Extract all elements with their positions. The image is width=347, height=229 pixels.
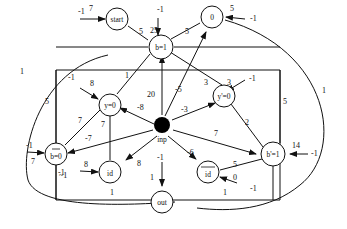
- edge-nb0-input: [27, 152, 44, 153]
- svg-text:5: 5: [185, 27, 189, 36]
- node-yp0: y'=0: [213, 85, 235, 107]
- node-zero: 0: [201, 6, 223, 28]
- svg-text:inp: inp: [157, 135, 167, 144]
- svg-text:5: 5: [45, 97, 49, 106]
- edge-b1-y0: [117, 54, 150, 94]
- svg-text:y'=0: y'=0: [217, 92, 230, 101]
- node-id: id: [99, 161, 121, 183]
- node-not-b0: b=0: [45, 143, 67, 165]
- svg-text:0: 0: [233, 173, 237, 182]
- svg-text:3: 3: [204, 78, 208, 87]
- svg-text:0: 0: [210, 13, 214, 22]
- svg-text:5: 5: [283, 97, 287, 106]
- svg-text:-1: -1: [68, 73, 75, 82]
- svg-text:start: start: [111, 15, 125, 24]
- svg-text:1: 1: [150, 173, 154, 182]
- svg-text:-7: -7: [85, 134, 92, 143]
- svg-text:b=1: b=1: [155, 43, 167, 52]
- svg-text:7: 7: [89, 4, 93, 13]
- svg-text:-1: -1: [311, 149, 318, 158]
- node-not-id: id: [197, 161, 219, 183]
- svg-text:7: 7: [101, 120, 105, 129]
- svg-text:1: 1: [223, 188, 227, 197]
- svg-text:8: 8: [84, 160, 88, 169]
- svg-text:y=0: y=0: [104, 101, 116, 110]
- svg-text:1: 1: [322, 86, 326, 95]
- svg-text:b'=1: b'=1: [266, 150, 279, 159]
- svg-text:-1: -1: [157, 153, 164, 162]
- svg-text:20: 20: [147, 90, 155, 99]
- node-inp: inp: [154, 117, 170, 144]
- node-b1: b=1: [149, 35, 173, 59]
- svg-text:-5: -5: [175, 85, 182, 94]
- svg-text:-1: -1: [249, 74, 256, 83]
- svg-text:2: 2: [245, 118, 249, 127]
- node-start: start: [106, 8, 128, 30]
- network-diagram: start b=1 0 y=0 y'=0 inp b=0 b'=1 id id: [0, 0, 347, 229]
- edge-inp-id: [126, 136, 157, 160]
- svg-text:3: 3: [227, 78, 231, 87]
- node-bp1: b'=1: [261, 142, 285, 166]
- svg-text:8: 8: [90, 79, 94, 88]
- svg-text:id: id: [107, 169, 113, 178]
- svg-text:14: 14: [292, 141, 300, 150]
- edge-right-loop: [197, 20, 324, 210]
- svg-text:-1: -1: [26, 141, 33, 150]
- svg-text:-8: -8: [137, 103, 144, 112]
- svg-text:25: 25: [150, 26, 158, 35]
- edge-id-input: [80, 171, 98, 172]
- node-y0: y=0: [99, 94, 121, 116]
- svg-text:1: 1: [110, 188, 114, 197]
- svg-text:1: 1: [20, 67, 24, 76]
- edge-b1-yp0: [170, 52, 222, 85]
- edge-zero-input: [226, 17, 245, 19]
- svg-text:-6: -6: [187, 148, 194, 157]
- svg-text:7: 7: [31, 157, 35, 166]
- edge-y0-nb0: [65, 110, 100, 145]
- svg-text:-1: -1: [250, 184, 257, 193]
- svg-text:7: 7: [78, 116, 82, 125]
- edge-y0-input: [80, 88, 98, 99]
- edge-nid-bp1: [220, 159, 262, 170]
- svg-text:5: 5: [230, 4, 234, 13]
- svg-text:8: 8: [137, 159, 141, 168]
- node-out: out: [151, 191, 173, 213]
- svg-text:out: out: [157, 198, 168, 207]
- svg-text:5: 5: [233, 160, 237, 169]
- svg-text:-3: -3: [181, 105, 188, 114]
- svg-text:id: id: [205, 170, 211, 179]
- svg-text:7: 7: [214, 129, 218, 138]
- svg-text:5: 5: [139, 27, 143, 36]
- edge-start-b1: [128, 26, 148, 40]
- svg-text:-1: -1: [58, 168, 65, 177]
- svg-text:-1: -1: [250, 14, 257, 23]
- svg-text:b=0: b=0: [50, 152, 62, 161]
- svg-text:-1: -1: [157, 5, 164, 14]
- svg-text:1: 1: [125, 71, 129, 80]
- edge-inp-yp0: [172, 103, 215, 120]
- svg-text:-1: -1: [78, 7, 85, 16]
